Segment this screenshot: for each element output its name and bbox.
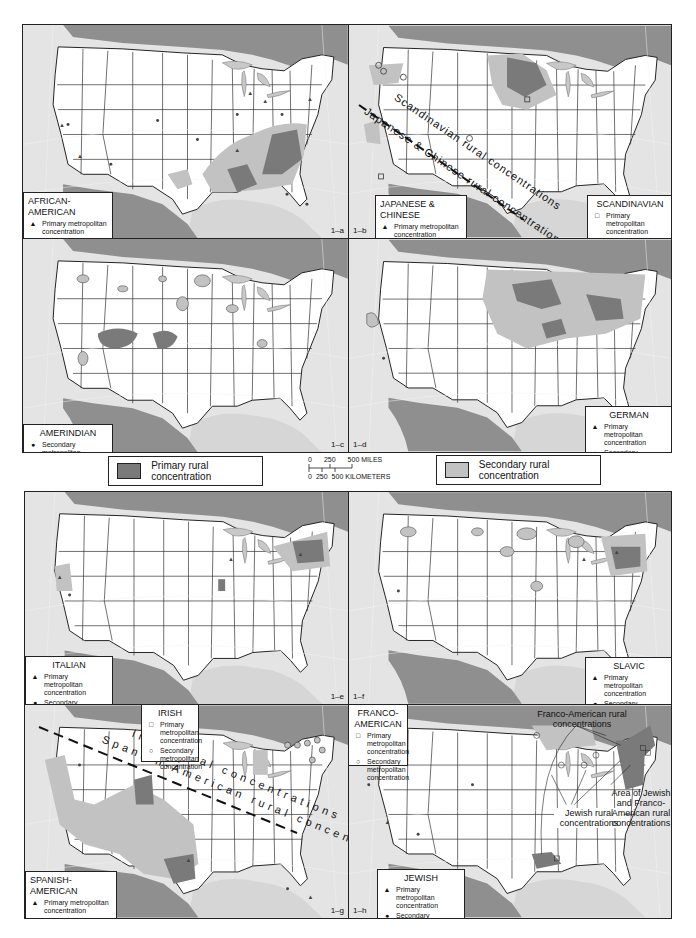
legend-row: ▲Primary metropolitan concentration [590,423,668,447]
panel-title: JAPANESE & CHINESE [380,199,462,221]
triangle-icon: ▲ [30,899,40,907]
legend-slavic: SLAVIC ▲Primary metropolitan concentrati… [585,657,672,705]
legend-franco-american: FRANCO-AMERICAN □Primary metropolitan co… [348,704,408,766]
legend-row: □Primary metropolitan concentration [353,732,403,756]
panel-number: 1–c [331,440,344,449]
legend-japanese-chinese: JAPANESE & CHINESE ▲Primary metropolitan… [375,195,467,239]
map-panel-german: GERMAN ▲Primary metropolitan concentrati… [348,238,672,453]
legend-row: ▲Primary metropolitan concentration [28,220,108,236]
map-panel-slavic: ▲▲ SLAVIC ▲Primary metropolitan concentr… [348,491,672,705]
panel-number: 1–a [331,226,344,235]
legend-row: □Primary metropolitan concentration [592,212,668,236]
legend-german: GERMAN ▲Primary metropolitan concentrati… [585,406,672,453]
square-icon: □ [353,732,363,740]
svg-text:▲: ▲ [297,551,303,557]
map-panel-spanish-american-irish: ▲▲ Irish rural concentrations Spanish-Am… [24,704,349,919]
map-panel-japanese-chinese-scandinavian: Scandinavian rural concentrations Japane… [348,24,672,239]
legend-row: ▲Primary metropolitan concentration [30,673,108,697]
panel-number: 1–e [331,692,344,701]
scale-miles: 0 250 500 MILES [308,456,398,463]
circle-icon: ○ [146,747,156,755]
svg-text:▲: ▲ [307,96,313,102]
panel-title: AMERINDIAN [28,428,108,439]
triangle-icon: ▲ [380,223,390,231]
map-panel-italian: ▲▲▲ ITALIAN ▲Primary metropolitan concen… [24,491,349,705]
panel-number: 1–h [353,906,366,915]
panel-number: 1–g [331,906,344,915]
svg-text:▲: ▲ [581,556,587,562]
legend-row: ▲Primary metropolitan concentration [380,223,462,239]
svg-text:▲: ▲ [57,574,63,580]
scale-km: 0 250 500 KILOMETERS [308,473,398,480]
panel-title-secondary: FRANCO-AMERICAN [353,708,403,730]
panel-title-secondary: IRISH [146,708,194,719]
legend-primary-rural: Primary rural concentration [108,456,263,486]
legend-row: ●Secondary metropolitan concentration [28,441,108,453]
panel-title: AFRICAN-AMERICAN [28,196,108,218]
svg-text:▲: ▲ [247,90,253,96]
legend-italian: ITALIAN ▲Primary metropolitan concentrat… [25,656,113,705]
secondary-rural-swatch [445,462,469,478]
panel-title-secondary: SCANDINAVIAN [592,199,668,210]
svg-text:▲: ▲ [77,153,83,159]
primary-rural-swatch [117,463,141,479]
map-panel-amerindian: AMERINDIAN ●Secondary metropolitan conce… [22,238,349,453]
panel-number: 1–f [353,692,364,701]
svg-text:▲: ▲ [228,556,234,562]
map-panel-african-american: ▲▲▲ ▲▲▲ AFRICAN-AMERICAN ▲Primary metrop… [22,24,349,239]
svg-text:▲: ▲ [262,98,268,104]
panel-title: JEWISH [382,873,460,884]
panel-title: GERMAN [590,410,668,421]
scale-bar: 0 250 500 MILES 0 250 500 KILOMETERS [308,456,398,488]
legend-irish: IRISH □Primary metropolitan concentratio… [141,704,199,762]
triangle-icon: ▲ [382,886,392,894]
panel-title: SLAVIC [590,661,668,672]
triangle-icon: ▲ [28,220,38,228]
panel-number: 1–b [353,226,366,235]
square-icon: □ [146,721,156,729]
map-panel-jewish-franco-american: ▲ Franco-American rural concentrations J… [348,704,672,919]
legend-row: □Primary metropolitan concentration [146,721,194,745]
svg-text:▲: ▲ [385,819,391,825]
dot-icon: ● [30,917,40,919]
us-base-map [23,239,348,452]
legend-row: ▲Primary metropolitan concentration [382,886,460,910]
dot-icon: ● [590,449,600,453]
legend-row: ○Secondary metropolitan concentration [353,758,403,782]
legend-row: ●Secondary metropolitan concentration [590,449,668,453]
triangle-icon: ▲ [30,673,40,681]
panel-title: ITALIAN [30,660,108,671]
cut-off-caption-edge [0,924,696,938]
legend-row: ●Secondary metropolitan concentration [30,917,112,919]
legend-row: ▲Primary metropolitan concentration [30,899,112,915]
panel-title: SPANISH-AMERICAN [30,875,112,897]
triangle-icon: ▲ [590,423,600,431]
svg-text:▲: ▲ [614,549,620,555]
legend-secondary-rural: Secondary rural concentration [436,455,601,485]
triangle-icon: ▲ [590,674,600,682]
legend-scandinavian: SCANDINAVIAN □Primary metropolitan conce… [587,195,672,239]
legend-african-american: AFRICAN-AMERICAN ▲Primary metropolitan c… [23,192,113,239]
square-icon: □ [592,212,602,220]
legend-spanish-american: SPANISH-AMERICAN ▲Primary metropolitan c… [25,871,117,919]
legend-jewish: JEWISH ▲Primary metropolitan concentrati… [377,869,465,919]
legend-amerindian: AMERINDIAN ●Secondary metropolitan conce… [23,424,113,453]
svg-text:▲: ▲ [59,122,65,128]
scale-ruler [308,464,368,472]
circle-icon: ○ [353,758,363,766]
dot-icon: ● [382,912,392,919]
legend-row: ●Secondary metropolitan concentration [382,912,460,919]
legend-row: ○Secondary metropolitan concentration [146,747,194,771]
svg-text:▲: ▲ [234,147,240,153]
annotation-jewish-franco-american-area: Area of Jewish and Franco-American rural… [611,788,671,828]
dot-icon: ● [28,441,38,449]
panel-number: 1–d [353,440,366,449]
annotation-franco-american-rural: Franco-American rural concentrations [537,709,627,729]
legend-row: ▲Primary metropolitan concentration [590,674,668,698]
